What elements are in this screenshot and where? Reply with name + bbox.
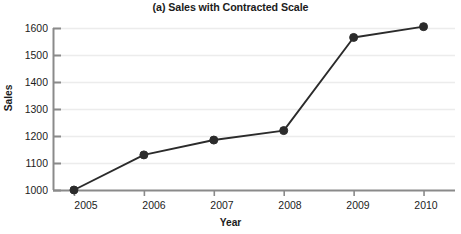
- axis-ticks: [53, 29, 424, 197]
- plot-area: [0, 0, 461, 234]
- chart-figure: (a) Sales with Contracted Scale Sales Ye…: [0, 0, 461, 234]
- grid-lines: [53, 29, 455, 164]
- data-markers: [70, 23, 428, 194]
- data-line-sales: [74, 27, 424, 190]
